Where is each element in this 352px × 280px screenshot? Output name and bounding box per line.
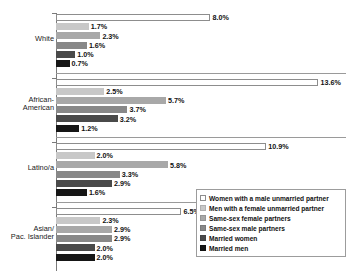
- bar: [56, 32, 100, 39]
- category-label-asian-pac-islander: Asian/Pac. Islander: [0, 225, 54, 242]
- bar-value-label: 1.0%: [77, 51, 93, 58]
- bar-value-label: 3.7%: [129, 106, 145, 113]
- category-label-line: Latino/a: [0, 164, 54, 172]
- chart-legend: Women with a male unmarried partnerMen w…: [196, 189, 346, 257]
- bar-value-label: 2.0%: [97, 152, 113, 159]
- bar: [56, 23, 89, 30]
- bar-value-label: 2.9%: [114, 226, 130, 233]
- bar-value-label: 1.6%: [89, 42, 105, 49]
- bar: [56, 180, 112, 187]
- bar-value-label: 5.8%: [170, 162, 186, 169]
- bar-value-label: 8.0%: [212, 14, 228, 21]
- legend-item: Same-sex female partners: [200, 213, 341, 223]
- legend-item: Married women: [200, 233, 341, 243]
- bar: [56, 208, 181, 215]
- bar: [56, 60, 70, 67]
- bar: [56, 14, 210, 21]
- bar: [56, 79, 318, 86]
- legend-swatch-icon: [200, 245, 206, 251]
- bar-value-label: 2.3%: [102, 33, 118, 40]
- bar-value-label: 3.3%: [122, 171, 138, 178]
- category-label-line: White: [0, 35, 54, 43]
- bar-value-label: 2.9%: [114, 180, 130, 187]
- category-label-line: Pac. Islander: [0, 233, 54, 241]
- bar: [56, 88, 104, 95]
- bar-value-label: 1.6%: [89, 189, 105, 196]
- legend-swatch-icon: [200, 205, 206, 211]
- group-separator: [56, 73, 346, 74]
- legend-item-label: Married women: [209, 235, 257, 242]
- bar-value-label: 2.0%: [97, 245, 113, 252]
- bar: [56, 42, 87, 49]
- bar: [56, 143, 266, 150]
- bar: [56, 226, 112, 233]
- bar-value-label: 5.7%: [168, 97, 184, 104]
- legend-item-label: Same-sex male partners: [209, 225, 285, 232]
- bar-value-label: 10.9%: [268, 143, 288, 150]
- bar-value-label: 2.5%: [106, 88, 122, 95]
- bar-value-label: 2.0%: [97, 254, 113, 261]
- category-label-african-american: African-American: [0, 96, 54, 113]
- bar-value-label: 13.6%: [320, 79, 340, 86]
- bar-value-label: 2.3%: [102, 217, 118, 224]
- legend-item: Men with a female unmarried partner: [200, 203, 341, 213]
- bar: [56, 106, 127, 113]
- category-label-white: White: [0, 35, 54, 43]
- bar-chart: WhiteAfrican-AmericanLatino/aAsian/Pac. …: [0, 0, 352, 280]
- bar: [56, 189, 87, 196]
- bar: [56, 171, 120, 178]
- bar-value-label: 3.2%: [120, 116, 136, 123]
- legend-item: Married men: [200, 243, 341, 253]
- bar: [56, 115, 118, 122]
- legend-swatch-icon: [200, 235, 206, 241]
- legend-item-label: Same-sex female partners: [209, 215, 291, 222]
- legend-item-label: Men with a female unmarried partner: [209, 205, 324, 212]
- bar: [56, 235, 112, 242]
- bar: [56, 125, 79, 132]
- category-label-line: American: [0, 104, 54, 112]
- bar-value-label: 1.2%: [81, 125, 97, 132]
- bar-value-label: 2.9%: [114, 235, 130, 242]
- legend-item: Same-sex male partners: [200, 223, 341, 233]
- legend-item-label: Married men: [209, 245, 248, 252]
- bar: [56, 51, 75, 58]
- bar: [56, 254, 95, 261]
- bar: [56, 244, 95, 251]
- bar: [56, 161, 168, 168]
- legend-item-label: Women with a male unmarried partner: [209, 195, 329, 202]
- legend-swatch-icon: [200, 225, 206, 231]
- category-label-latino-a: Latino/a: [0, 164, 54, 172]
- bar-value-label: 0.7%: [72, 60, 88, 67]
- legend-swatch-icon: [200, 195, 206, 201]
- legend-item: Women with a male unmarried partner: [200, 193, 341, 203]
- legend-swatch-icon: [200, 215, 206, 221]
- group-separator: [56, 137, 346, 138]
- bar: [56, 152, 95, 159]
- bar-value-label: 1.7%: [91, 23, 107, 30]
- bar: [56, 97, 166, 104]
- bar: [56, 217, 100, 224]
